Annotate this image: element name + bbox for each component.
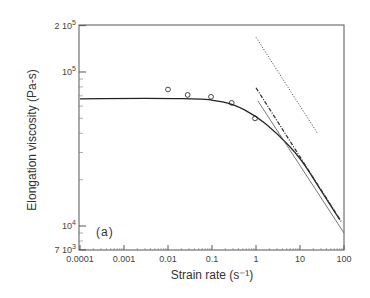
x-tick-label: 100	[336, 254, 351, 264]
x-tick-label: 1	[253, 254, 258, 264]
y-axis-title: Elongation viscosity (Pa-s)	[25, 69, 39, 210]
data-point-marker	[166, 87, 171, 92]
y-tick-label: 105	[62, 65, 76, 77]
y-axis-ticks: 7 1031041052 105	[55, 19, 86, 255]
thin-solid-line-line	[258, 101, 344, 233]
viscosity-chart: 0.00010.0010.010.1110100 7 1031041052 10…	[0, 0, 370, 298]
panel-label: (a)	[96, 225, 114, 239]
data-point-marker	[209, 94, 214, 99]
y-tick-label: 2 105	[55, 19, 77, 31]
plot-frame	[79, 25, 344, 250]
x-axis-title: Strain rate (s⁻¹)	[171, 268, 254, 282]
x-axis-ticks: 0.00010.0010.010.1110100	[66, 245, 351, 264]
dotted-slope-line-line	[256, 37, 318, 133]
data-point-marker	[185, 93, 190, 98]
x-tick-label: 0.01	[159, 254, 177, 264]
x-tick-label: 0.001	[113, 254, 136, 264]
data-series	[80, 37, 344, 233]
x-tick-label: 0.1	[206, 254, 219, 264]
model-curve-line	[80, 98, 340, 219]
y-tick-label: 104	[62, 219, 76, 231]
dash-dot-line-line	[256, 88, 342, 223]
x-tick-label: 0.0001	[66, 254, 94, 264]
x-tick-label: 10	[295, 254, 305, 264]
